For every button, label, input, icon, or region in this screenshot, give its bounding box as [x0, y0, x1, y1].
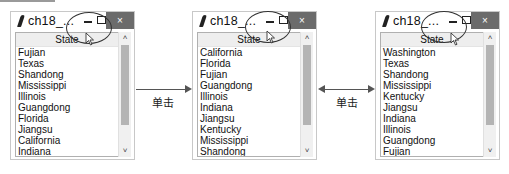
treeview: State California Florida Fujian Guangdon… [197, 32, 301, 157]
highlight-ellipse [421, 11, 467, 43]
scroll-up-icon[interactable]: ˄ [301, 32, 313, 44]
vertical-scrollbar[interactable]: ˄ ˅ [300, 32, 313, 157]
list-item[interactable]: Fujian [18, 47, 118, 58]
scroll-down-icon[interactable]: ˅ [484, 145, 496, 157]
list-item[interactable]: Florida [200, 58, 300, 69]
list-item[interactable]: Shandong [200, 146, 300, 157]
treeview-rows: Fujian Texas Shandong Mississippi Illino… [18, 47, 118, 157]
list-item[interactable]: Kentucky [383, 91, 483, 102]
list-item[interactable]: Illinois [200, 91, 300, 102]
scroll-thumb[interactable] [303, 45, 311, 125]
list-item[interactable]: Mississippi [200, 135, 300, 146]
arrow-right-icon [185, 85, 192, 93]
vertical-scrollbar[interactable]: ˄ ˅ [483, 32, 496, 157]
feather-icon [382, 15, 390, 27]
arrow-left-icon [318, 85, 325, 93]
list-item[interactable]: Texas [18, 58, 118, 69]
feather-icon [199, 15, 207, 27]
feather-icon [17, 15, 25, 27]
list-item[interactable]: Illinois [383, 124, 483, 135]
close-button[interactable]: × [288, 12, 316, 29]
arrow-right-icon [368, 85, 375, 93]
scroll-thumb[interactable] [486, 45, 494, 125]
transition-arrow-2 [320, 89, 370, 90]
list-item[interactable]: California [18, 135, 118, 146]
list-item[interactable]: Guangdong [18, 102, 118, 113]
list-item[interactable]: Mississippi [383, 80, 483, 91]
scroll-down-icon[interactable]: ˅ [301, 145, 313, 157]
click-label-1: 单击 [152, 94, 174, 110]
list-item[interactable]: Mississippi [18, 80, 118, 91]
treeview: State Washington Texas Shandong Mississi… [380, 32, 484, 157]
treeview: State Fujian Texas Shandong Mississippi … [15, 32, 119, 157]
list-item[interactable]: Jiangsu [18, 124, 118, 135]
list-item[interactable]: Guangdong [200, 80, 300, 91]
list-item[interactable]: Washington [383, 47, 483, 58]
scroll-thumb[interactable] [121, 45, 129, 125]
list-item[interactable]: Illinois [18, 91, 118, 102]
treeview-rows: Washington Texas Shandong Mississippi Ke… [383, 47, 483, 157]
scroll-up-icon[interactable]: ˄ [484, 32, 496, 44]
decorative-top-line [0, 0, 55, 2]
list-item[interactable]: Shandong [18, 69, 118, 80]
treeview-rows: California Florida Fujian Guangdong Illi… [200, 47, 300, 157]
list-item[interactable]: Indiana [200, 102, 300, 113]
list-item[interactable]: Kentucky [200, 124, 300, 135]
transition-arrow-1 [136, 89, 186, 90]
list-item[interactable]: Indiana [18, 146, 118, 157]
list-item[interactable]: Jiangsu [383, 102, 483, 113]
list-item[interactable]: Jiangsu [200, 113, 300, 124]
list-item[interactable]: Guangdong [383, 135, 483, 146]
list-item[interactable]: Fujian [383, 146, 483, 157]
list-item[interactable]: Shandong [383, 69, 483, 80]
list-item[interactable]: Fujian [200, 69, 300, 80]
list-item[interactable]: Indiana [383, 113, 483, 124]
close-button[interactable]: × [471, 12, 499, 29]
scroll-down-icon[interactable]: ˅ [119, 145, 131, 157]
list-item[interactable]: California [200, 47, 300, 58]
vertical-scrollbar[interactable]: ˄ ˅ [118, 32, 131, 157]
list-item[interactable]: Florida [18, 113, 118, 124]
list-item[interactable]: Texas [383, 58, 483, 69]
scroll-up-icon[interactable]: ˄ [119, 32, 131, 44]
click-label-2: 单击 [336, 94, 358, 110]
